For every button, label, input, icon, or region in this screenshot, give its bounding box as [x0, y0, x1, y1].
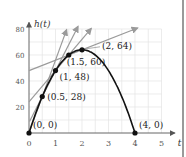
point-label: (2, 64) — [102, 41, 132, 51]
y-axis-label: h(t) — [34, 19, 51, 29]
right-border — [182, 0, 184, 157]
data-point — [132, 130, 137, 135]
data-point — [26, 130, 31, 135]
x-tick-label: 4 — [132, 139, 137, 148]
point-label: (1.5, 60) — [67, 57, 106, 67]
x-tick-label: 2 — [79, 139, 84, 148]
y-tick-label: 40 — [16, 78, 25, 86]
point-label: (4, 0) — [139, 120, 163, 130]
point-label: (0.5, 28) — [47, 92, 86, 102]
y-tick-label: 20 — [16, 104, 25, 112]
x-tick-label: 5 — [159, 139, 164, 148]
data-point — [79, 47, 84, 52]
x-tick-label: 1 — [53, 139, 58, 148]
point-label: (1, 48) — [60, 72, 90, 82]
data-point — [53, 68, 58, 73]
x-tick-label: 0 — [26, 139, 31, 148]
data-point — [40, 94, 45, 99]
x-tick-label: 3 — [106, 139, 111, 148]
y-tick-label: 80 — [16, 26, 25, 34]
point-label: (0, 0) — [33, 120, 57, 130]
y-tick-label: 60 — [16, 52, 25, 60]
chart: 01234520406080th(t)(0, 0)(0.5, 28)(1, 48… — [0, 0, 186, 157]
